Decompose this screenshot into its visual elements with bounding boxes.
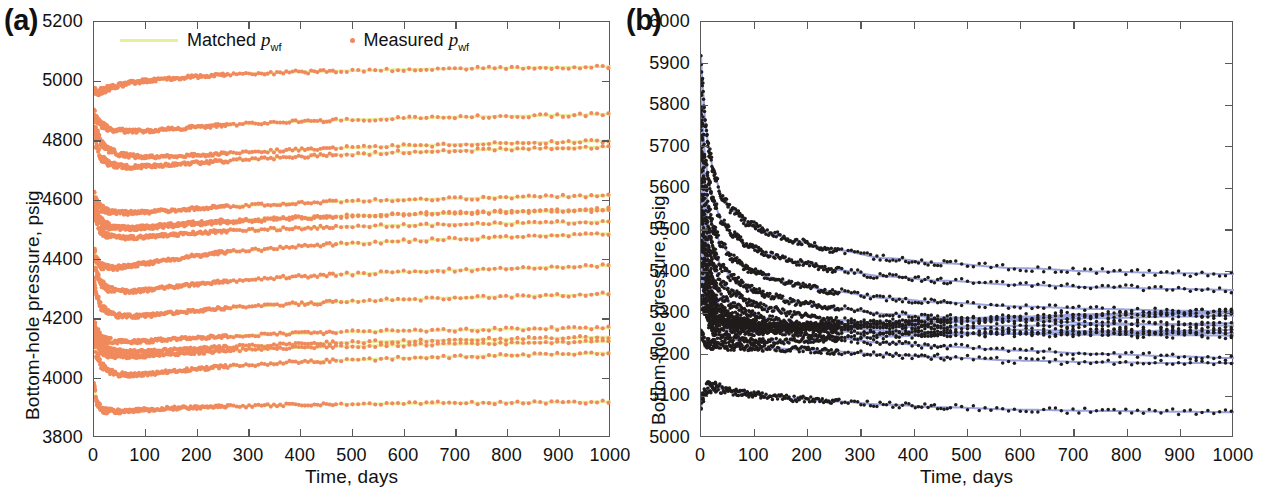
data-point: [888, 321, 892, 325]
x-tick-mark-top: [248, 22, 249, 29]
data-point: [736, 315, 740, 319]
data-point: [949, 281, 953, 285]
data-point: [1077, 362, 1081, 366]
data-point: [995, 327, 999, 331]
data-point: [1007, 284, 1011, 288]
data-point: [920, 329, 924, 333]
y-tick-mark-right: [602, 140, 609, 141]
data-point: [436, 212, 440, 216]
data-point: [379, 69, 383, 73]
data-point: [544, 112, 548, 116]
data-point: [1089, 330, 1093, 334]
data-point: [339, 146, 343, 150]
y-tick-label: 5900: [632, 52, 690, 73]
data-point: [487, 65, 491, 69]
data-point: [1095, 272, 1099, 276]
data-point: [850, 319, 854, 323]
x-tick-mark: [559, 429, 560, 436]
data-point: [1224, 326, 1228, 330]
data-point: [368, 273, 372, 277]
data-point: [1060, 314, 1064, 318]
data-point: [989, 280, 993, 284]
data-point: [926, 406, 930, 410]
data-point: [715, 202, 719, 206]
data-point: [396, 149, 400, 153]
data-point: [859, 294, 863, 298]
data-point: [1089, 323, 1093, 327]
data-point: [885, 340, 889, 344]
data-point: [960, 343, 964, 347]
data-point: [853, 337, 857, 341]
data-point: [966, 280, 970, 284]
data-point: [773, 256, 777, 260]
data-point: [700, 294, 704, 298]
data-point: [532, 399, 536, 403]
data-point: [238, 349, 242, 353]
data-point: [872, 330, 876, 334]
data-point: [334, 147, 338, 151]
data-point: [453, 401, 457, 405]
data-point: [933, 354, 937, 358]
data-point: [93, 131, 97, 135]
data-point: [843, 339, 847, 343]
data-point: [470, 222, 474, 226]
y-tick-label: 4800: [0, 129, 83, 150]
data-point: [1095, 327, 1099, 331]
data-point: [720, 292, 724, 296]
data-point: [1206, 355, 1210, 359]
data-point: [373, 272, 377, 276]
data-point: [710, 217, 714, 221]
data-point: [699, 178, 703, 182]
data-point: [561, 66, 565, 70]
data-point: [578, 340, 582, 344]
data-point: [920, 301, 924, 305]
data-point: [983, 317, 987, 321]
data-point: [436, 198, 440, 202]
data-point: [1036, 332, 1040, 336]
data-point: [1089, 267, 1093, 271]
data-point: [550, 220, 554, 224]
data-point: [572, 194, 576, 198]
data-point: [833, 270, 837, 274]
data-point: [481, 222, 485, 226]
data-point: [402, 402, 406, 406]
data-point: [356, 145, 360, 149]
data-point: [700, 154, 704, 158]
data-point: [1142, 335, 1146, 339]
data-point: [708, 147, 712, 151]
data-point: [1177, 327, 1181, 331]
data-point: [917, 322, 921, 326]
data-point: [521, 328, 525, 332]
data-point: [701, 332, 705, 336]
data-point: [510, 211, 514, 215]
data-point: [470, 329, 474, 333]
data-point: [700, 247, 704, 251]
data-point: [1206, 326, 1210, 330]
data-point: [584, 350, 588, 354]
data-point: [872, 320, 876, 324]
data-point: [1136, 313, 1140, 317]
data-point: [872, 334, 876, 338]
data-point: [954, 318, 958, 322]
data-point: [447, 297, 451, 301]
data-point: [396, 401, 400, 405]
data-point: [93, 109, 97, 113]
data-point: [441, 148, 445, 152]
x-tick-mark: [248, 429, 249, 436]
data-point: [914, 301, 918, 305]
legend-marker-swatch-icon: [350, 38, 355, 43]
data-point: [1095, 285, 1099, 289]
data-point: [487, 142, 491, 146]
data-point: [436, 269, 440, 273]
data-point: [476, 143, 480, 147]
data-point: [746, 344, 750, 348]
data-point: [350, 199, 354, 203]
data-point: [1183, 355, 1187, 359]
data-point: [1048, 314, 1052, 318]
data-point: [498, 114, 502, 118]
data-point: [942, 320, 946, 324]
data-point: [93, 115, 97, 119]
data-point: [1165, 308, 1169, 312]
data-point: [1189, 408, 1193, 412]
data-point: [521, 235, 525, 239]
